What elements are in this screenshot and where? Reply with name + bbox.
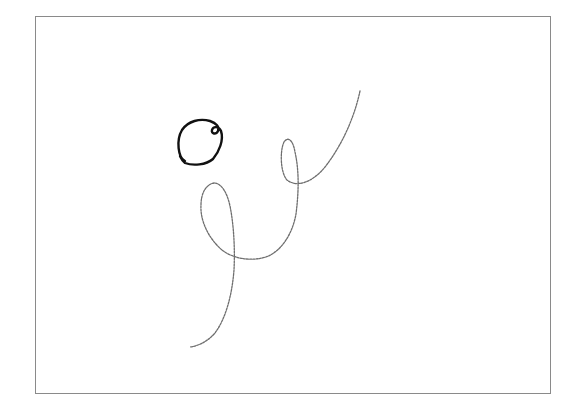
stroke-layer	[0, 0, 579, 417]
long-faint-trajectory-stroke	[190, 91, 360, 347]
small-dark-loop-stroke	[178, 120, 221, 165]
